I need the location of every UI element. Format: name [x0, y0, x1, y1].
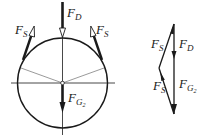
- force-diagram: FD FS FS FG2 FS FD: [0, 0, 206, 139]
- force-arrow-fg2: [60, 85, 66, 113]
- radius-right: [63, 68, 105, 83]
- center-point: [61, 81, 65, 85]
- label-fs-left: FS: [14, 22, 28, 39]
- arrowhead-fd: [172, 51, 177, 59]
- label-fs-right: FS: [95, 22, 109, 39]
- label-fd: FD: [66, 5, 82, 22]
- force-polygon: FS FD FS FG2: [150, 24, 196, 114]
- force-arrow-fd: [60, 2, 66, 38]
- polygon-label-fs-lower: FS: [152, 78, 166, 95]
- arrowhead-fs-lower: [160, 72, 165, 81]
- arrowhead-fs-upper: [170, 24, 174, 34]
- label-fg2: FG2: [67, 90, 85, 108]
- radius-left: [21, 68, 63, 83]
- polygon-label-fs-upper: FS: [150, 36, 164, 53]
- free-body-diagram: FD FS FS FG2: [11, 2, 115, 135]
- polygon-label-fg2: FG2: [178, 76, 196, 94]
- polygon-label-fd: FD: [178, 36, 194, 53]
